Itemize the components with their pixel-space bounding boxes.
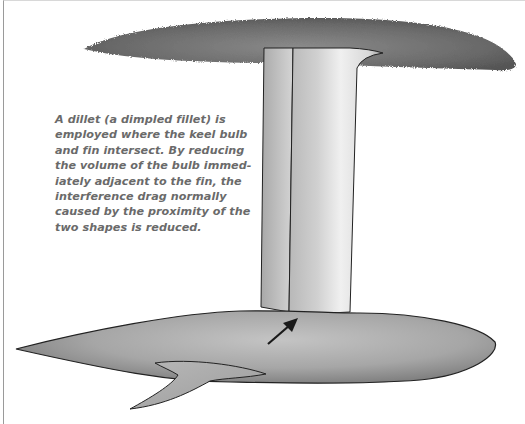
figure-caption: A dillet (a dimpled fillet) is employed … — [55, 112, 265, 235]
caption-line: the volume of the bulb immed- — [55, 158, 265, 173]
caption-line: interference drag normally — [55, 189, 265, 204]
keel-fin — [261, 48, 383, 314]
caption-line: employed where the keel bulb — [55, 127, 265, 142]
caption-line: and fin intersect. By reducing — [55, 143, 265, 158]
caption-line: iately adjacent to the fin, the — [55, 174, 265, 189]
caption-line: two shapes is reduced. — [55, 220, 265, 235]
caption-line: caused by the proximity of the — [55, 204, 265, 219]
caption-line: A dillet (a dimpled fillet) is — [55, 112, 265, 127]
